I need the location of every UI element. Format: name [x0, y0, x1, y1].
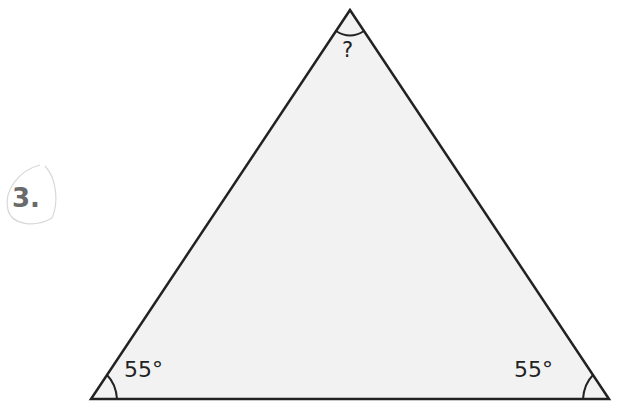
- triangle-figure: [0, 0, 632, 415]
- problem-number: 3.: [12, 183, 40, 213]
- triangle-shape: [91, 10, 609, 399]
- angle-label-top: ?: [342, 38, 353, 62]
- angle-label-bottom-right: 55°: [514, 357, 553, 382]
- angle-label-bottom-left: 55°: [124, 357, 163, 382]
